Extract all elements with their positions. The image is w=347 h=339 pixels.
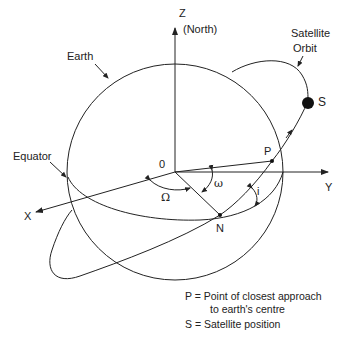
equator-ellipse <box>68 172 283 220</box>
origin-label: 0 <box>159 158 165 170</box>
satellite-orbit-label-1: Satellite <box>291 27 330 39</box>
line-perigee <box>175 161 272 172</box>
legend-p-line2: to earth's centre <box>185 303 322 316</box>
y-axis-label: Y <box>325 181 332 193</box>
z-axis-label: Z <box>179 7 186 19</box>
x-axis-label: X <box>24 210 31 222</box>
equator-label: Equator <box>13 150 52 162</box>
inclination-label: i <box>257 185 259 197</box>
node-label: N <box>216 222 224 234</box>
earth-label: Earth <box>67 50 93 62</box>
arg-perigee-label: ω <box>214 178 223 190</box>
legend-p-line1: P = Point of closest approach <box>185 290 322 303</box>
perigee-label: P <box>264 145 271 157</box>
satellite-orbit <box>50 61 308 279</box>
satellite-label: S <box>318 96 326 108</box>
node-dot <box>218 213 222 217</box>
north-label: (North) <box>183 23 217 35</box>
raan-arc <box>150 180 190 190</box>
satellite-orbit-label: Satellite Orbit <box>291 26 330 56</box>
perigee-dot <box>270 159 274 163</box>
arg-perigee-arc <box>202 170 213 192</box>
raan-label: Ω <box>161 192 170 204</box>
legend-s-line: S = Satellite position <box>185 318 322 331</box>
satellite-dot <box>302 97 314 109</box>
legend: P = Point of closest approach to earth's… <box>185 290 322 331</box>
satellite-orbit-label-2: Orbit <box>291 42 317 54</box>
